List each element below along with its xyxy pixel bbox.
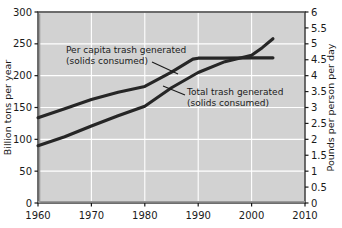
y2-tick-label: 5 (311, 38, 317, 49)
y-tick-label: 0 (26, 198, 32, 209)
left-axis-title: Billion tons per year (2, 60, 13, 156)
y-tick-label: 100 (13, 134, 32, 145)
y2-tick-label: 1 (311, 166, 317, 177)
y2-tick-label: 5.5 (311, 23, 327, 34)
total-annotation-line2: (solids consumed) (187, 98, 269, 108)
y2-tick-label: 2 (311, 134, 317, 145)
y2-tick-label: 0 (311, 198, 317, 209)
x-tick-label: 2000 (239, 210, 264, 221)
y2-tick-label: 6 (311, 7, 317, 18)
x-tick-label: 1960 (25, 210, 50, 221)
right-axis-title: Pounds per person per day (325, 43, 336, 171)
y2-tick-label: 3 (311, 102, 317, 113)
y-tick-label: 250 (13, 38, 32, 49)
per-capita-annotation-line2: (solids consumed) (66, 56, 148, 66)
y2-tick-label: 4 (311, 70, 317, 81)
x-tick-label: 2010 (292, 210, 317, 221)
x-tick-label: 1990 (185, 210, 210, 221)
y2-tick-label: 0.5 (311, 182, 327, 193)
x-tick-label: 1980 (132, 210, 157, 221)
y-tick-label: 200 (13, 70, 32, 81)
x-tick-label: 1970 (79, 210, 104, 221)
per-capita-annotation-line1: Per capita trash generated (66, 45, 186, 55)
y-tick-label: 150 (13, 102, 32, 113)
y-tick-label: 50 (19, 166, 32, 177)
chart-figure: 050100150200250300 00.511.522.533.544.55… (0, 0, 342, 228)
y-tick-label: 300 (13, 7, 32, 18)
total-annotation-line1: Total trash generated (186, 87, 283, 97)
trash-generation-line-chart: 050100150200250300 00.511.522.533.544.55… (0, 0, 342, 228)
